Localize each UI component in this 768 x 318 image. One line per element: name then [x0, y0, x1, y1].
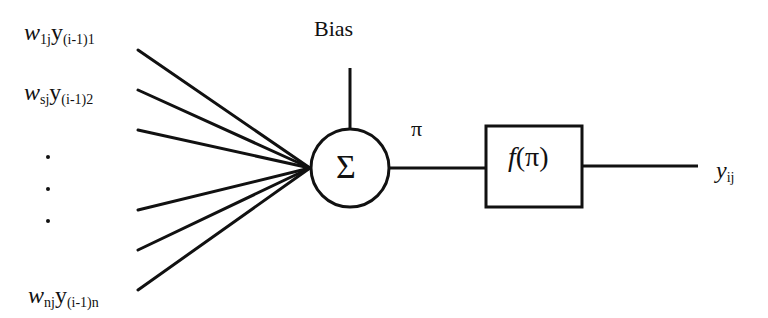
signal-symbol: y	[55, 282, 67, 308]
weight-symbol: w	[24, 19, 40, 45]
output-label: yij	[716, 158, 734, 182]
input-line-5	[138, 168, 310, 250]
summation-symbol: Σ	[336, 150, 356, 184]
activation-function-label: f(π)	[508, 143, 549, 171]
signal-symbol: y	[51, 19, 63, 45]
net-input-label: π	[411, 118, 422, 140]
ellipsis-dot-1	[46, 155, 50, 159]
signal-subscript: (i-1)2	[61, 92, 93, 107]
weight-symbol: w	[28, 282, 44, 308]
neuron-diagram-canvas	[0, 0, 768, 318]
signal-subscript: (i-1)1	[63, 32, 95, 47]
activation-f: f	[508, 141, 516, 172]
signal-symbol: y	[49, 79, 61, 105]
signal-subscript: (i-1)n	[67, 295, 99, 310]
ellipsis-dot-2	[46, 187, 50, 191]
input-label-2: wsjy(i-1)2	[24, 80, 93, 104]
bias-label: Bias	[314, 18, 353, 40]
weight-symbol: w	[24, 79, 40, 105]
input-line-2	[138, 90, 310, 168]
ellipsis-dot-3	[46, 219, 50, 223]
activation-args: (π)	[516, 141, 549, 172]
input-label-1: w1jy(i-1)1	[24, 20, 95, 44]
input-line-4	[138, 168, 310, 210]
weight-subscript: 1j	[40, 32, 51, 47]
input-label-n: wnjy(i-1)n	[28, 283, 99, 307]
weight-subscript: nj	[44, 295, 55, 310]
input-line-6	[138, 168, 310, 290]
output-subscript: ij	[727, 170, 735, 185]
weight-subscript: sj	[40, 92, 49, 107]
output-symbol: y	[716, 157, 727, 183]
